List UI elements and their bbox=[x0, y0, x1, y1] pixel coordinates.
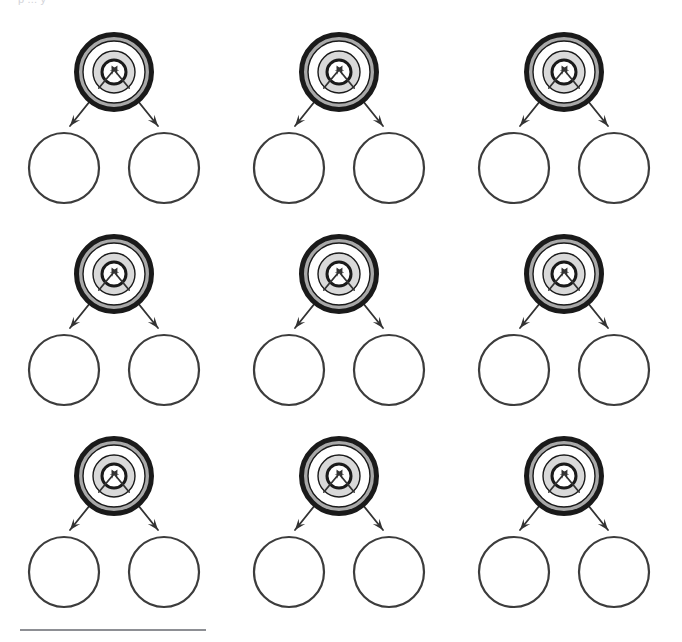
outcome-circle-right bbox=[354, 335, 424, 405]
diagram-unit bbox=[18, 20, 218, 220]
bullseye-target bbox=[527, 237, 602, 312]
diagram-unit bbox=[243, 20, 443, 220]
outcome-circle-left bbox=[254, 335, 324, 405]
outcome-circle-right bbox=[129, 335, 199, 405]
diagram-unit bbox=[468, 222, 668, 422]
outcome-circle-right bbox=[579, 335, 649, 405]
outcome-circle-left bbox=[29, 335, 99, 405]
diagram-unit bbox=[18, 424, 218, 624]
outcome-circle-right bbox=[354, 133, 424, 203]
diagram-unit bbox=[243, 222, 443, 422]
footer-horizontal-rule bbox=[20, 629, 206, 631]
outcome-circle-left bbox=[254, 537, 324, 607]
outcome-circle-left bbox=[254, 133, 324, 203]
bullseye-target bbox=[77, 237, 152, 312]
outcome-circle-left bbox=[29, 133, 99, 203]
diagram-grid bbox=[0, 0, 682, 642]
diagram-unit bbox=[468, 20, 668, 220]
outcome-circle-left bbox=[479, 335, 549, 405]
outcome-circle-right bbox=[354, 537, 424, 607]
outcome-circle-right bbox=[579, 537, 649, 607]
page-root: p ... y bbox=[0, 0, 682, 642]
outcome-circle-left bbox=[479, 133, 549, 203]
bullseye-target bbox=[302, 35, 377, 110]
diagram-unit bbox=[468, 424, 668, 624]
outcome-circle-right bbox=[129, 133, 199, 203]
outcome-circle-right bbox=[129, 537, 199, 607]
bullseye-target bbox=[302, 237, 377, 312]
diagram-unit bbox=[243, 424, 443, 624]
bullseye-target bbox=[77, 35, 152, 110]
bullseye-target bbox=[527, 439, 602, 514]
outcome-circle-right bbox=[579, 133, 649, 203]
bullseye-target bbox=[77, 439, 152, 514]
bullseye-target bbox=[302, 439, 377, 514]
outcome-circle-left bbox=[29, 537, 99, 607]
diagram-unit bbox=[18, 222, 218, 422]
outcome-circle-left bbox=[479, 537, 549, 607]
bullseye-target bbox=[527, 35, 602, 110]
